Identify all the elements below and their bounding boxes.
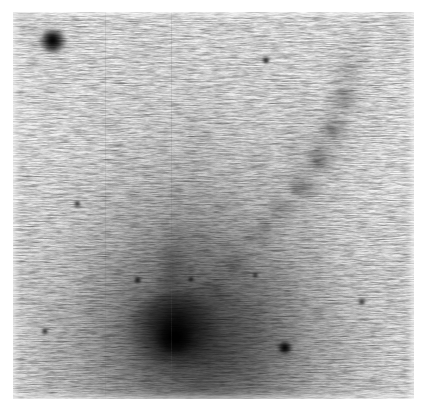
astronomical-image-figure — [0, 0, 427, 417]
image-plate — [13, 12, 414, 399]
emulsion-fine-grain — [13, 12, 414, 399]
caption-area — [0, 399, 427, 417]
